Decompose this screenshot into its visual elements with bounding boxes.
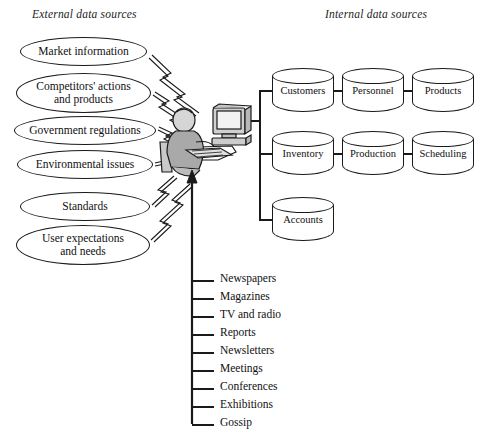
tick-meetings bbox=[192, 370, 214, 372]
database-accounts: Accounts bbox=[272, 197, 334, 241]
database-label: Accounts bbox=[272, 197, 334, 241]
tick-exhibitions bbox=[192, 406, 214, 408]
tick-gossip bbox=[192, 424, 214, 426]
database-label: Production bbox=[342, 131, 404, 175]
media-channel-meetings: Meetings bbox=[220, 362, 263, 374]
media-channel-newsletters: Newsletters bbox=[220, 344, 274, 356]
tick-newsletters bbox=[192, 352, 214, 354]
media-channel-exhibitions: Exhibitions bbox=[220, 398, 273, 410]
database-label: Customers bbox=[272, 68, 334, 112]
database-scheduling: Scheduling bbox=[412, 131, 474, 175]
media-channel-newspapers: Newspapers bbox=[220, 272, 276, 284]
media-channel-conferences: Conferences bbox=[220, 380, 277, 392]
media-channel-tv-and-radio: TV and radio bbox=[220, 308, 281, 320]
database-personnel: Personnel bbox=[342, 68, 404, 112]
media-channel-reports: Reports bbox=[220, 326, 256, 338]
tick-reports bbox=[192, 334, 214, 336]
database-production: Production bbox=[342, 131, 404, 175]
database-label: Inventory bbox=[272, 131, 334, 175]
tick-conferences bbox=[192, 388, 214, 390]
database-label: Scheduling bbox=[412, 131, 474, 175]
database-customers: Customers bbox=[272, 68, 334, 112]
media-channel-magazines: Magazines bbox=[220, 290, 270, 302]
diagram-canvas: External data sources Internal data sour… bbox=[0, 0, 481, 446]
tick-magazines bbox=[192, 298, 214, 300]
tick-tv-and-radio bbox=[192, 316, 214, 318]
database-inventory: Inventory bbox=[272, 131, 334, 175]
database-label: Personnel bbox=[342, 68, 404, 112]
media-channel-gossip: Gossip bbox=[220, 416, 252, 428]
tick-newspapers bbox=[192, 280, 214, 282]
database-label: Products bbox=[412, 68, 474, 112]
database-products: Products bbox=[412, 68, 474, 112]
